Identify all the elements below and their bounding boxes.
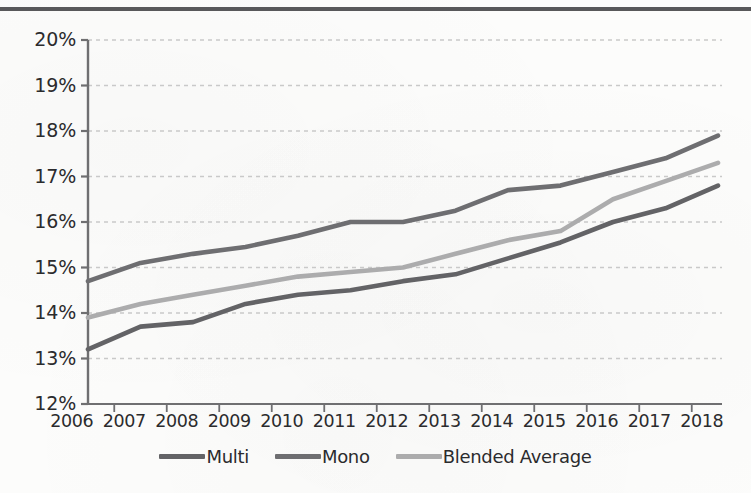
y-axis-tick-label: 15% <box>10 256 76 278</box>
y-axis-tick-label: 19% <box>10 74 76 96</box>
chart-legend: MultiMonoBlended Average <box>0 446 751 467</box>
legend-item-blended-average[interactable]: Blended Average <box>396 446 592 467</box>
legend-swatch-icon <box>396 454 442 459</box>
chart-page: 12%13%14%15%16%17%18%19%20% 200620072008… <box>0 0 751 493</box>
series-line-mono <box>88 136 718 282</box>
y-axis-tick-label: 17% <box>10 165 76 187</box>
legend-swatch-icon <box>275 454 321 459</box>
x-axis-tick-label: 2018 <box>670 411 734 431</box>
legend-label: Blended Average <box>443 446 592 467</box>
series-lines <box>88 136 718 350</box>
y-axis-tick-label: 20% <box>10 28 76 50</box>
grid-lines <box>88 40 722 359</box>
legend-item-mono[interactable]: Mono <box>275 446 370 467</box>
legend-label: Multi <box>206 446 249 467</box>
y-axis-tick-label: 16% <box>10 210 76 232</box>
series-line-blended-average <box>88 163 718 318</box>
legend-item-multi[interactable]: Multi <box>159 446 249 467</box>
legend-label: Mono <box>322 446 370 467</box>
y-axis-tick-label: 13% <box>10 347 76 369</box>
legend-swatch-icon <box>159 454 205 459</box>
y-axis-tick-label: 14% <box>10 301 76 323</box>
line-chart: 12%13%14%15%16%17%18%19%20% 200620072008… <box>0 11 751 493</box>
y-axis-tick-label: 18% <box>10 119 76 141</box>
